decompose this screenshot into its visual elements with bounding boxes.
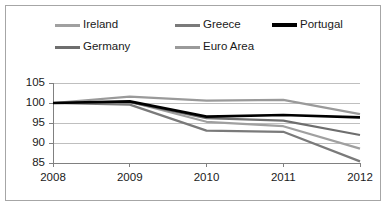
- y-axis-tick-label: 90: [11, 137, 45, 149]
- y-axis-tick-label: 85: [11, 157, 45, 169]
- series-line-euro-area[interactable]: [53, 97, 360, 115]
- x-axis-tick-label: 2010: [184, 172, 230, 184]
- x-axis-tick-label: 2008: [30, 172, 76, 184]
- y-axis-tick-label: 105: [11, 77, 45, 89]
- chart-figure: IrelandGreecePortugal GermanyEuro Area 8…: [0, 0, 386, 206]
- x-axis-tick-label: 2009: [107, 172, 153, 184]
- x-axis-tick-label: 2012: [337, 172, 383, 184]
- y-axis-tick-label: 100: [11, 97, 45, 109]
- y-axis-tick-label: 95: [11, 117, 45, 129]
- series-line-ireland[interactable]: [53, 102, 360, 149]
- series-line-greece[interactable]: [53, 103, 360, 161]
- plot-area: 85909510010520082009201020112012: [0, 0, 386, 206]
- x-axis-tick-label: 2011: [260, 172, 306, 184]
